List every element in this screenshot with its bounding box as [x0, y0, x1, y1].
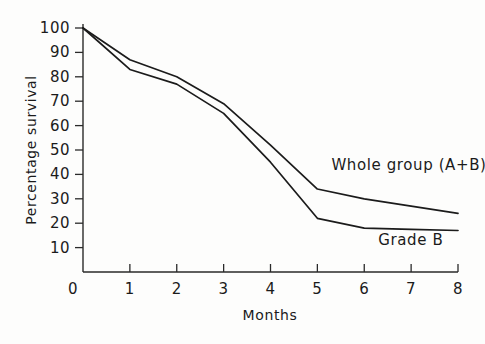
- y-tick-label: 50: [50, 141, 70, 159]
- x-tick-label: 2: [172, 280, 182, 298]
- x-tick-label: 7: [406, 280, 416, 298]
- x-tick-label: 6: [359, 280, 369, 298]
- x-tick-label: 8: [453, 280, 463, 298]
- y-tick-label: 100: [40, 19, 70, 37]
- y-tick-label: 40: [50, 165, 70, 183]
- y-tick-label: 60: [50, 117, 70, 135]
- series-label-whole-group: Whole group (A+B): [331, 156, 485, 174]
- series-line-grade-b: [83, 28, 458, 231]
- x-tick-group: 012345678: [68, 264, 463, 298]
- y-tick-label: 70: [50, 92, 70, 110]
- y-tick-label: 80: [50, 68, 70, 86]
- y-tick-group: 102030405060708090100: [40, 19, 83, 257]
- data-series-group: [83, 28, 458, 231]
- x-tick-label: 4: [265, 280, 275, 298]
- y-tick-label: 90: [50, 43, 70, 61]
- x-axis-title: Months: [243, 307, 298, 323]
- survival-curve-figure: 102030405060708090100 012345678 Whole gr…: [0, 0, 485, 344]
- series-label-grade-b: Grade B: [378, 231, 443, 249]
- y-axis-title: Percentage survival: [23, 75, 39, 224]
- x-tick-label: 5: [312, 280, 322, 298]
- x-tick-label: 0: [68, 280, 78, 298]
- series-line-whole-group: [83, 28, 458, 213]
- y-tick-label: 20: [50, 214, 70, 232]
- x-tick-label: 1: [125, 280, 135, 298]
- y-tick-label: 30: [50, 190, 70, 208]
- x-tick-label: 3: [219, 280, 229, 298]
- chart-canvas: 102030405060708090100 012345678 Whole gr…: [0, 0, 485, 344]
- y-tick-label: 10: [50, 239, 70, 257]
